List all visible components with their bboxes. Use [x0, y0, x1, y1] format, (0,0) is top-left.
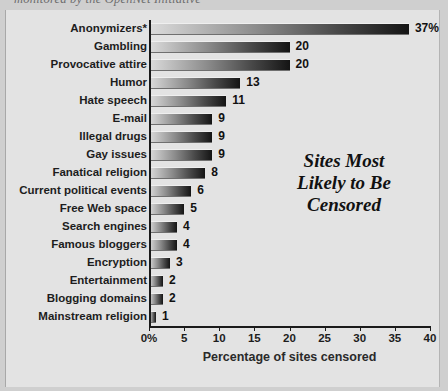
bar	[149, 59, 290, 71]
bar-value-label: 20	[296, 56, 309, 74]
bar-value-label: 5	[190, 200, 197, 218]
bar	[149, 293, 163, 305]
x-axis-tick-label: 10	[213, 332, 226, 344]
bar-value-label: 6	[197, 182, 204, 200]
bar	[149, 113, 212, 125]
x-axis-tick	[184, 326, 185, 331]
bar-row: Humor13	[6, 74, 441, 92]
y-axis-line	[149, 20, 151, 326]
bar-row: Search engines4	[6, 218, 441, 236]
bar-row: Famous bloggers4	[6, 236, 441, 254]
x-axis-tick-label: 40	[424, 332, 437, 344]
x-axis-tick-label: 15	[248, 332, 261, 344]
bar-value-label: 20	[296, 38, 309, 56]
bar	[149, 23, 409, 35]
bar	[149, 257, 170, 269]
bar-value-label: 13	[246, 74, 259, 92]
bar-category-label: Famous bloggers	[51, 236, 147, 254]
bar-category-label: Blogging domains	[47, 290, 147, 308]
x-axis-tick	[290, 326, 291, 331]
x-axis-tick	[395, 326, 396, 331]
bar-row: Mainstream religion1	[6, 308, 441, 326]
x-axis-tick-label: 0%	[141, 332, 158, 344]
bar-track: 2	[149, 290, 441, 308]
bar-category-label: Mainstream religion	[38, 308, 147, 326]
chart-title-line: Likely to Be	[264, 172, 424, 194]
bar-track: 4	[149, 218, 441, 236]
x-axis-tick	[149, 326, 150, 331]
bar	[149, 95, 226, 107]
caption-fragment-text: monitored by the OpenNet Initiative	[14, 0, 314, 6]
bar	[149, 167, 205, 179]
chart-panel: Anonymizers*37%Gambling20Provocative att…	[5, 10, 440, 387]
x-axis-tick-label: 5	[181, 332, 187, 344]
bar-value-label: 4	[183, 236, 190, 254]
bar-value-label: 37%	[415, 20, 439, 38]
x-axis-tick-label: 20	[283, 332, 296, 344]
bar-value-label: 1	[162, 308, 169, 326]
bar-row: Encryption3	[6, 254, 441, 272]
bar-row: Provocative attire20	[6, 56, 441, 74]
bar-row: Illegal drugs9	[6, 128, 441, 146]
bar-category-label: Provocative attire	[50, 56, 147, 74]
bar-value-label: 2	[169, 290, 176, 308]
bar-row: Entertainment2	[6, 272, 441, 290]
bar-track: 4	[149, 236, 441, 254]
bar-track: 1	[149, 308, 441, 326]
chart-title-line: Censored	[264, 194, 424, 216]
bar-category-label: Hate speech	[79, 92, 147, 110]
x-axis-tick-label: 35	[388, 332, 401, 344]
x-axis-tick	[325, 326, 326, 331]
bar-value-label: 9	[218, 110, 225, 128]
bar-row: Blogging domains2	[6, 290, 441, 308]
bar-track: 20	[149, 56, 441, 74]
bar-track: 13	[149, 74, 441, 92]
bar-track: 20	[149, 38, 441, 56]
bar-track: 9	[149, 128, 441, 146]
chart-title: Sites MostLikely to BeCensored	[264, 150, 424, 216]
bar-value-label: 8	[211, 164, 218, 182]
bar-track: 11	[149, 92, 441, 110]
bar-category-label: Anonymizers*	[70, 20, 147, 38]
bar-category-label: Current political events	[19, 182, 147, 200]
bar-category-label: Gambling	[94, 38, 147, 56]
bar	[149, 77, 240, 89]
bar-value-label: 2	[169, 272, 176, 290]
bar-track: 37%	[149, 20, 441, 38]
bar-value-label: 9	[218, 146, 225, 164]
bar-category-label: E-mail	[112, 110, 147, 128]
bar-category-label: Gay issues	[86, 146, 147, 164]
x-axis-tick-label: 25	[318, 332, 331, 344]
bar-category-label: Free Web space	[60, 200, 147, 218]
chart-page: monitored by the OpenNet Initiative Anon…	[0, 0, 448, 391]
bar-value-label: 9	[218, 128, 225, 146]
bar	[149, 275, 163, 287]
x-axis-tick	[254, 326, 255, 331]
bar-row: Hate speech11	[6, 92, 441, 110]
chart-title-line: Sites Most	[264, 150, 424, 172]
bar-track: 2	[149, 272, 441, 290]
bar	[149, 185, 191, 197]
x-axis-tick-label: 30	[353, 332, 366, 344]
bar	[149, 239, 177, 251]
bar-category-label: Entertainment	[70, 272, 147, 290]
bar-track: 9	[149, 110, 441, 128]
bar-category-label: Humor	[110, 74, 147, 92]
bar-category-label: Fanatical religion	[52, 164, 147, 182]
bar	[149, 131, 212, 143]
bar-track: 3	[149, 254, 441, 272]
bar-row: E-mail9	[6, 110, 441, 128]
bar-category-label: Search engines	[62, 218, 147, 236]
x-axis-tick	[219, 326, 220, 331]
x-axis-tick	[430, 326, 431, 331]
bar	[149, 149, 212, 161]
bar-row: Gambling20	[6, 38, 441, 56]
bar-category-label: Encryption	[87, 254, 147, 272]
bar-category-label: Illegal drugs	[79, 128, 147, 146]
x-axis-tick	[360, 326, 361, 331]
bar-row: Anonymizers*37%	[6, 20, 441, 38]
bar-value-label: 11	[232, 92, 245, 110]
bar	[149, 221, 177, 233]
bar-value-label: 3	[176, 254, 183, 272]
bar	[149, 203, 184, 215]
